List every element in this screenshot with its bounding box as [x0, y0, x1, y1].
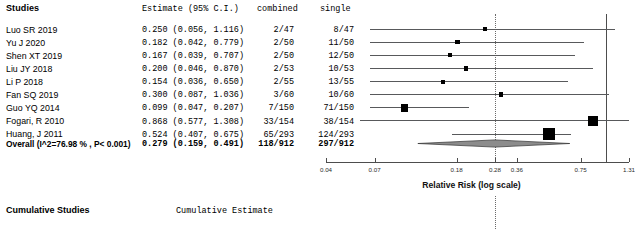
study-marker	[448, 53, 452, 57]
confidence-interval-line	[370, 29, 615, 30]
study-marker	[588, 116, 598, 126]
cumulative-estimate-header: Cumulative Estimate	[176, 206, 273, 216]
x-axis-tick	[517, 158, 518, 162]
x-axis-line	[326, 162, 629, 163]
x-axis-tick	[375, 158, 376, 162]
x-axis-tick-label: 0.18	[451, 166, 463, 173]
x-axis-tick-label: 0.04	[320, 166, 332, 173]
x-axis-tick	[457, 158, 458, 162]
x-axis-tick	[581, 158, 582, 162]
study-marker	[543, 128, 555, 140]
study-marker	[499, 92, 504, 97]
confidence-interval-line	[370, 94, 609, 95]
x-axis-tick	[495, 158, 496, 162]
null-effect-line	[606, 14, 607, 162]
x-axis-tick	[629, 158, 630, 162]
study-marker	[483, 27, 487, 31]
x-axis-title: Relative Risk (log scale)	[422, 180, 520, 190]
x-axis-tick-label: 0.28	[489, 166, 501, 173]
study-marker	[464, 66, 468, 70]
confidence-interval-line	[370, 55, 575, 56]
x-axis-tick-label: 0.07	[369, 166, 381, 173]
confidence-interval-line	[370, 81, 568, 82]
x-axis-tick-label: 0.36	[511, 166, 523, 173]
x-axis-tick	[326, 158, 327, 162]
x-axis-tick-label: 0.75	[575, 166, 587, 173]
study-marker	[455, 40, 459, 44]
pooled-estimate-line	[495, 14, 496, 162]
confidence-interval-line	[370, 42, 584, 43]
pooled-estimate-line-lower	[495, 196, 496, 229]
confidence-interval-line	[370, 107, 469, 108]
study-marker	[441, 80, 445, 84]
x-axis-tick-label: 1.31	[623, 166, 635, 173]
cumulative-studies-header: Cumulative Studies	[6, 205, 90, 215]
confidence-interval-line	[370, 68, 593, 69]
study-marker	[401, 104, 409, 112]
